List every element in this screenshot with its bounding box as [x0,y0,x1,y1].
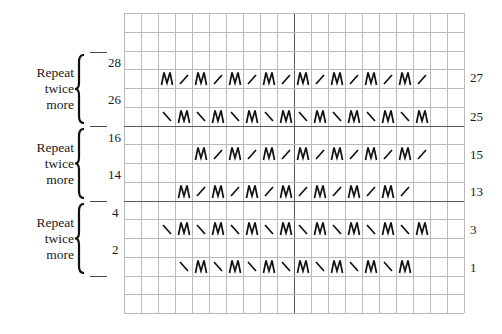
make-one-icon [192,257,209,276]
right-slant-decrease-icon [413,144,430,163]
right-slant-decrease-icon [226,182,243,201]
make-one-icon [209,182,226,201]
row-number-left: 14 [108,168,121,181]
make-one-icon [260,257,277,276]
make-one-icon [362,69,379,88]
make-one-icon [362,144,379,163]
grid-line-horizontal [124,313,464,314]
make-one-icon [260,144,277,163]
left-slant-decrease-icon [158,107,175,126]
repeat-instruction-line: Repeat [14,140,74,156]
make-one-icon [345,182,362,201]
make-one-icon [243,107,260,126]
left-slant-decrease-icon [396,219,413,238]
repeat-instruction-line: twice [14,81,74,97]
make-one-icon [175,107,192,126]
make-one-icon [158,69,175,88]
make-one-icon [226,69,243,88]
make-one-icon [294,69,311,88]
make-one-icon [362,257,379,276]
right-slant-decrease-icon [311,69,328,88]
make-one-icon [379,219,396,238]
repeat-range-tick [90,201,107,202]
make-one-icon [175,182,192,201]
make-one-icon [294,144,311,163]
grid-line-horizontal [124,51,464,52]
row-number-left: 2 [112,243,119,256]
left-slant-decrease-icon [362,107,379,126]
left-slant-decrease-icon [192,219,209,238]
make-one-icon [379,182,396,201]
left-slant-decrease-icon [345,257,362,276]
right-slant-decrease-icon [277,69,294,88]
left-slant-decrease-icon [226,219,243,238]
right-slant-decrease-icon [362,182,379,201]
grid-line-horizontal [124,13,464,14]
curly-brace-icon [74,203,86,278]
make-one-icon [277,182,294,201]
make-one-icon [209,219,226,238]
right-slant-decrease-icon [379,144,396,163]
left-slant-decrease-icon [209,257,226,276]
repeat-instruction: Repeattwicemore [14,215,74,263]
left-slant-decrease-icon [396,107,413,126]
curly-brace-icon [74,128,86,203]
make-one-icon [396,69,413,88]
repeat-instruction-line: more [14,97,74,113]
make-one-icon [226,144,243,163]
right-slant-decrease-icon [379,69,396,88]
left-slant-decrease-icon [294,219,311,238]
curly-brace-icon [74,54,86,128]
repeat-range-tick [90,52,107,53]
repeat-instruction: Repeattwicemore [14,65,74,113]
grid-line-vertical [464,13,465,313]
left-slant-decrease-icon [243,257,260,276]
grid-line-horizontal [124,32,464,33]
left-slant-decrease-icon [328,107,345,126]
left-slant-decrease-icon [192,107,209,126]
make-one-icon [413,107,430,126]
row-number-left: 4 [112,206,119,219]
make-one-icon [379,107,396,126]
right-slant-decrease-icon [413,69,430,88]
right-slant-decrease-icon [396,182,413,201]
make-one-icon [192,144,209,163]
left-slant-decrease-icon [311,257,328,276]
right-slant-decrease-icon [209,144,226,163]
make-one-icon [192,69,209,88]
right-slant-decrease-icon [345,144,362,163]
repeat-instruction-line: twice [14,156,74,172]
right-slant-decrease-icon [175,69,192,88]
make-one-icon [396,257,413,276]
repeat-instruction-line: twice [14,231,74,247]
repeat-instruction: Repeattwicemore [14,140,74,188]
right-slant-decrease-icon [311,144,328,163]
make-one-icon [311,219,328,238]
make-one-icon [226,257,243,276]
left-slant-decrease-icon [260,107,277,126]
right-slant-decrease-icon [345,69,362,88]
left-slant-decrease-icon [294,107,311,126]
make-one-icon [311,182,328,201]
row-number-right: 15 [470,148,483,161]
row-number-left: 16 [108,131,121,144]
make-one-icon [277,219,294,238]
row-number-right: 13 [470,185,483,198]
repeat-instruction-line: more [14,247,74,263]
make-one-icon [345,219,362,238]
right-slant-decrease-icon [260,182,277,201]
make-one-icon [260,69,277,88]
left-slant-decrease-icon [175,257,192,276]
left-slant-decrease-icon [277,257,294,276]
make-one-icon [413,219,430,238]
left-slant-decrease-icon [260,219,277,238]
row-number-right: 3 [470,223,477,236]
left-slant-decrease-icon [362,219,379,238]
grid-line-horizontal [124,163,464,164]
make-one-icon [396,144,413,163]
right-slant-decrease-icon [243,144,260,163]
grid-line-horizontal [124,238,464,239]
row-number-right: 1 [470,261,477,274]
repeat-instruction-line: Repeat [14,215,74,231]
make-one-icon [209,107,226,126]
